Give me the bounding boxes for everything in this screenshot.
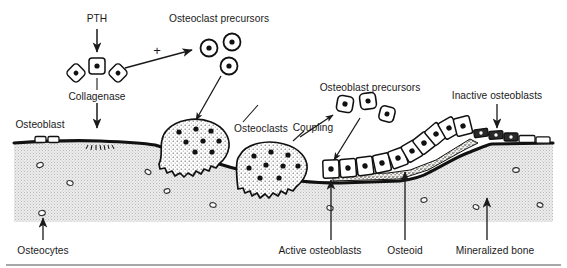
osteoblast-precursor-cell [378, 105, 396, 123]
osteocyte-lacuna [390, 229, 397, 235]
label-pth: PTH [87, 13, 108, 24]
label-osteoclast-precursors: Osteoclast precursors [169, 13, 269, 24]
inactive-osteoblast-row [474, 128, 550, 143]
osteoclasts-label-leader [243, 105, 258, 122]
osteoblast-precursor-cell [336, 95, 355, 114]
osteoblast-cell [453, 115, 473, 136]
osteoclast-precursor-cluster [201, 34, 241, 75]
inactive-osteoblast-cell [489, 131, 503, 140]
bone-remodeling-figure: PTH Osteoclast precursors + Collagenase … [0, 0, 567, 268]
label-inactive-osteoblasts: Inactive osteoblasts [452, 90, 542, 101]
osteoblast-cell [339, 158, 356, 177]
label-osteoclasts: Osteoclasts [234, 123, 288, 134]
osteoblast-cell [65, 62, 86, 83]
osteoblast-cell [107, 62, 128, 83]
label-osteoid: Osteoid [387, 245, 423, 256]
inactive-osteoblast-cell [504, 133, 518, 141]
lining-cell [35, 137, 46, 143]
inactive-osteoblast-cell [536, 137, 550, 143]
precursor-to-osteoclast-arrow [196, 76, 221, 120]
osteoblast-cell [356, 156, 374, 176]
label-osteoblast: Osteoblast [15, 119, 64, 130]
inactive-osteoblast-cell [474, 128, 489, 138]
label-osteocytes: Osteocytes [17, 245, 68, 256]
osteocyte-lacuna [420, 197, 427, 203]
label-collagenase: Collagenase [68, 91, 125, 102]
label-plus-sign: + [153, 43, 161, 58]
osteocyte-lacuna [513, 167, 520, 172]
osteoblast-cell [323, 160, 340, 179]
label-active-osteoblasts: Active osteoblasts [278, 245, 361, 256]
diagram-canvas: PTH Osteoclast precursors + Collagenase … [0, 0, 567, 268]
label-coupling: Coupling [293, 122, 334, 133]
label-mineralized-bone: Mineralized bone [456, 245, 535, 256]
osteocyte-lacuna [38, 210, 45, 216]
osteocyte-lacuna [96, 229, 103, 235]
osteocyte-lacuna [209, 202, 216, 208]
osteoblast-precursor-cluster [336, 92, 396, 123]
osteoclast-precursor-cell [221, 58, 238, 75]
osteoblast-precursor-cell [359, 92, 377, 110]
inactive-osteoblast-cell [519, 136, 535, 143]
lining-cell [48, 137, 59, 143]
osteoclast-precursor-cell [201, 40, 218, 57]
label-osteoblast-precursors: Osteoblast precursors [320, 82, 421, 93]
osteoclast-precursor-cell [224, 34, 241, 51]
precursor-to-osteoblast-row-arrow [334, 118, 360, 160]
osteoblast-cell-activated [89, 58, 105, 74]
